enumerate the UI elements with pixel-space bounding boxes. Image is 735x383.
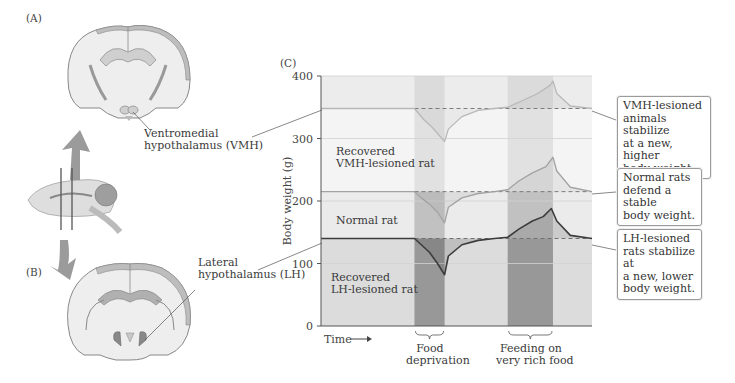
normal-callout-connector	[592, 192, 616, 194]
interval-label-rich-food-line-2: very rich food	[496, 355, 566, 367]
callout-lh-line-4: body weight.	[623, 283, 696, 296]
interval-band-dark-1	[508, 239, 553, 327]
interval-brace-1	[509, 331, 552, 339]
callout-lh-line-1: LH-lesioned	[623, 233, 696, 246]
callout-vmh-line-2: animals stabilize	[623, 113, 705, 138]
y-tick-label-0: 0	[306, 320, 313, 333]
callout-vmh-line-1: VMH-lesioned	[623, 100, 705, 113]
x-axis-label-text: Time	[324, 333, 352, 346]
callout-lh: LH-lesioned rats stabilize at a new, low…	[617, 229, 702, 300]
series-label-lh-line-2: LH-lesioned rat	[331, 284, 418, 296]
vmh-callout-connector	[592, 111, 616, 120]
x-axis-label: Time	[324, 333, 372, 346]
series-label-normal: Normal rat	[336, 215, 398, 227]
callout-normal-line-2: defend a stable	[623, 185, 696, 210]
y-tick-label-300: 300	[292, 133, 313, 146]
interval-label-rich-food: Feeding on very rich food	[496, 343, 566, 367]
lh-callout-connector	[592, 245, 616, 250]
time-arrow-icon	[367, 336, 372, 342]
callout-normal: Normal rats defend a stable body weight.	[617, 168, 702, 226]
series-label-normal-line-1: Normal rat	[336, 215, 398, 227]
series-label-vmh: Recovered VMH-lesioned rat	[336, 146, 435, 170]
y-axis-label: Body weight (g)	[281, 157, 294, 246]
callout-normal-line-3: body weight.	[623, 210, 696, 223]
interval-label-food-deprivation-line-2: deprivation	[406, 355, 454, 367]
interval-brace-0	[415, 331, 443, 339]
callout-lh-line-2: rats stabilize at	[623, 246, 696, 271]
y-tick-label-200: 200	[292, 195, 313, 208]
y-tick-label-100: 100	[292, 258, 313, 271]
y-tick-label-400: 400	[292, 70, 313, 83]
series-label-lh: Recovered LH-lesioned rat	[331, 272, 418, 296]
callout-normal-line-1: Normal rats	[623, 172, 696, 185]
series-label-vmh-line-2: VMH-lesioned rat	[336, 158, 435, 170]
callout-vmh: VMH-lesioned animals stabilize at a new,…	[617, 96, 711, 179]
callout-vmh-line-3: at a new, higher	[623, 138, 705, 163]
interval-label-food-deprivation: Food deprivation	[406, 343, 454, 367]
